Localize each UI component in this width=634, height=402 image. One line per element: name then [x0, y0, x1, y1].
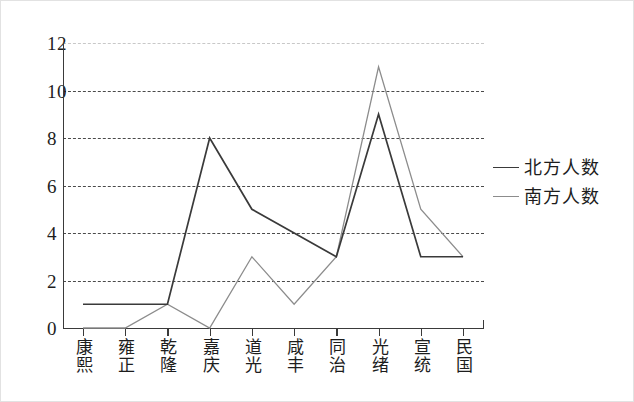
chart-figure: 024681012 康熙雍正乾隆嘉庆道光咸丰同治光绪宣统民国 北方人数 南方人数 — [0, 0, 634, 402]
x-tick-1 — [125, 328, 126, 336]
legend-label-south: 南方人数 — [524, 188, 600, 206]
legend-entry-south: 南方人数 — [493, 182, 625, 211]
x-tick-3 — [210, 328, 211, 336]
x-category-label-0: 康熙 — [75, 338, 92, 374]
x-axis-category-labels: 康熙雍正乾隆嘉庆道光咸丰同治光绪宣统民国 — [63, 338, 484, 400]
x-tick-9 — [463, 328, 464, 336]
x-category-label-6: 同治 — [328, 338, 345, 374]
series-line-北方人数 — [83, 114, 463, 304]
x-tick-5 — [294, 328, 295, 336]
x-category-label-1: 雍正 — [117, 338, 134, 374]
series-line-南方人数 — [83, 67, 463, 328]
x-tick-6 — [336, 328, 337, 336]
data-series-lines — [63, 43, 484, 328]
x-tick-2 — [167, 328, 168, 336]
x-category-label-4: 道光 — [243, 338, 260, 374]
x-tick-4 — [252, 328, 253, 336]
x-category-label-8: 宣统 — [412, 338, 429, 374]
legend-entry-north: 北方人数 — [493, 153, 625, 182]
x-category-label-9: 民国 — [455, 338, 472, 374]
legend-label-north: 北方人数 — [524, 159, 600, 177]
x-tick-7 — [379, 328, 380, 336]
x-tick-0 — [83, 328, 84, 336]
legend-swatch-north — [493, 167, 519, 168]
chart-legend: 北方人数 南方人数 — [493, 153, 625, 211]
x-category-label-7: 光绪 — [370, 338, 387, 374]
x-category-label-5: 咸丰 — [286, 338, 303, 374]
legend-swatch-south — [493, 196, 519, 197]
x-category-label-3: 嘉庆 — [201, 338, 218, 374]
x-tick-8 — [421, 328, 422, 336]
plot-area: 024681012 — [63, 43, 484, 328]
x-category-label-2: 乾隆 — [159, 338, 176, 374]
